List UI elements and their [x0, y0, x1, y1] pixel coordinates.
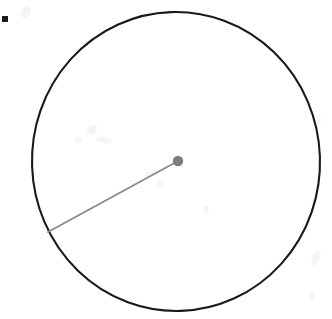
- geometry-figure: [0, 0, 332, 319]
- scan-smudge: [310, 291, 314, 302]
- corner-square-marker: [2, 16, 8, 22]
- scan-smudge: [19, 4, 33, 20]
- scan-smudge: [85, 124, 99, 137]
- circle-center-dot: [173, 156, 183, 166]
- figure-canvas: [0, 0, 332, 319]
- scan-smudge: [309, 249, 322, 267]
- scan-smudge: [73, 135, 83, 145]
- scan-smudge: [155, 179, 165, 190]
- scan-smudge: [96, 136, 113, 144]
- radius-segment: [48, 161, 178, 232]
- scan-smudge: [204, 206, 209, 213]
